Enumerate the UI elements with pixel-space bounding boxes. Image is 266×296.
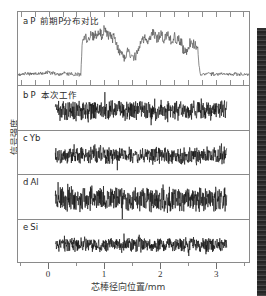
panel-label-e: eSi bbox=[23, 222, 43, 232]
panel-element-e: Si bbox=[30, 222, 38, 232]
panel-d: dAl bbox=[18, 175, 249, 220]
panel-element-c: Yb bbox=[30, 133, 41, 143]
panel-element-d: Al bbox=[30, 177, 38, 187]
x-tick-label: 2 bbox=[148, 269, 172, 279]
trace-e bbox=[18, 220, 249, 265]
figure-root: 信号强度 aP前期P分布对比bP本次工作cYbdAleSi 0123 芯棒径向位… bbox=[0, 0, 266, 296]
x-tick-label: 1 bbox=[92, 269, 116, 279]
scan-edge-artifact bbox=[257, 28, 266, 296]
panel-letter-e: e bbox=[23, 222, 28, 232]
panel-letter-c: c bbox=[23, 133, 28, 143]
x-axis-label: 芯棒径向位置/mm bbox=[0, 280, 256, 293]
x-tick-minor bbox=[132, 263, 133, 266]
panel-label-b: bP本次工作 bbox=[23, 88, 77, 100]
trace-c bbox=[18, 131, 249, 175]
panel-element-a: P bbox=[30, 16, 35, 26]
x-tick-label: 0 bbox=[36, 269, 60, 279]
panel-note-a: 前期P分布对比 bbox=[40, 16, 99, 26]
panel-a: aP前期P分布对比 bbox=[18, 12, 249, 86]
x-axis: 0123 bbox=[17, 263, 250, 279]
panel-b: bP本次工作 bbox=[18, 86, 249, 131]
panel-label-a: aP前期P分布对比 bbox=[23, 14, 100, 26]
panel-letter-d: d bbox=[23, 177, 28, 187]
panel-note-b: 本次工作 bbox=[41, 90, 77, 100]
x-tick-minor bbox=[244, 263, 245, 266]
trace-d bbox=[18, 175, 249, 219]
panel-letter-a: a bbox=[23, 16, 28, 26]
panel-stack: aP前期P分布对比bP本次工作cYbdAleSi bbox=[17, 11, 250, 263]
x-tick-label: 3 bbox=[204, 269, 228, 279]
panel-e: eSi bbox=[18, 220, 249, 265]
x-tick-minor bbox=[76, 263, 77, 266]
panel-label-c: cYb bbox=[23, 133, 45, 143]
x-tick-minor bbox=[20, 263, 21, 266]
panel-c: cYb bbox=[18, 131, 249, 176]
panel-label-d: dAl bbox=[23, 177, 44, 187]
x-tick-minor bbox=[188, 263, 189, 266]
panel-letter-b: b bbox=[23, 90, 28, 100]
panel-element-b: P bbox=[30, 90, 35, 100]
